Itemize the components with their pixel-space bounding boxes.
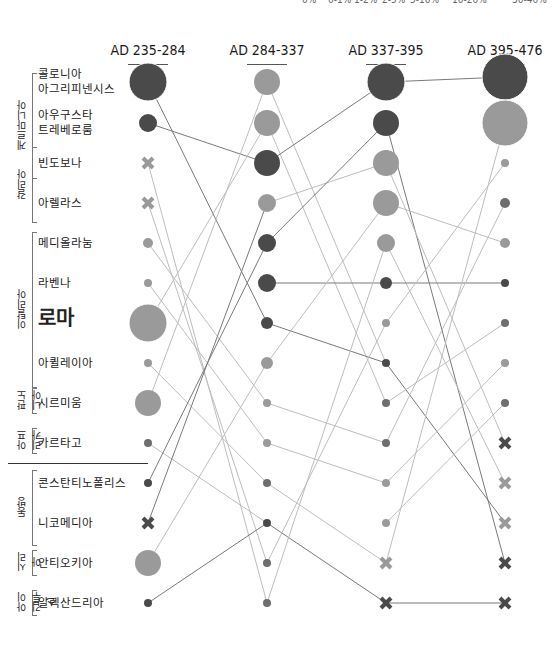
cross-icon <box>143 198 153 208</box>
share-circle <box>261 317 273 329</box>
share-circle <box>254 110 280 136</box>
share-circle <box>500 238 510 248</box>
share-circle <box>373 190 399 216</box>
transition-line <box>148 82 267 403</box>
share-circle <box>382 359 390 367</box>
share-circle <box>135 550 161 576</box>
share-circle <box>144 599 152 607</box>
transition-line <box>386 323 505 403</box>
share-circle <box>144 359 152 367</box>
cross-icon <box>143 158 153 168</box>
share-circle <box>261 357 273 369</box>
share-circle <box>382 479 390 487</box>
share-circle <box>129 63 167 101</box>
share-circle <box>501 399 509 407</box>
share-circle <box>254 150 280 176</box>
transition-line <box>267 123 386 243</box>
transition-line <box>267 82 386 163</box>
transition-line <box>386 363 505 523</box>
share-circle <box>263 439 271 447</box>
transition-line <box>148 203 267 563</box>
transition-line <box>148 363 267 483</box>
transition-line <box>386 203 505 243</box>
transition-line <box>148 82 267 323</box>
share-circle <box>482 100 528 146</box>
cross-icon <box>500 478 510 488</box>
share-circle <box>254 69 280 95</box>
share-circle <box>258 194 276 212</box>
cross-icon <box>500 558 510 568</box>
bump-chart <box>0 0 557 654</box>
share-circle <box>382 399 390 407</box>
share-circle <box>263 559 271 567</box>
transition-line <box>386 163 505 443</box>
share-circle <box>135 390 161 416</box>
share-circle <box>380 277 392 289</box>
transition-line <box>148 203 267 523</box>
share-circle <box>382 319 390 327</box>
share-circle <box>263 519 271 527</box>
share-circle <box>143 238 153 248</box>
transition-line <box>386 163 505 323</box>
cross-icon <box>500 518 510 528</box>
cross-icon <box>143 518 153 528</box>
share-circle <box>373 150 399 176</box>
share-circle <box>144 439 152 447</box>
transition-line <box>267 323 386 563</box>
transition-line <box>267 123 386 403</box>
share-circle <box>144 479 152 487</box>
share-circle <box>382 439 390 447</box>
share-circle <box>501 279 509 287</box>
share-circle <box>373 110 399 136</box>
transition-line <box>386 203 505 443</box>
transition-line <box>267 443 386 483</box>
share-circle <box>263 599 271 607</box>
transition-line <box>267 523 386 603</box>
transition-line <box>148 123 267 323</box>
share-circle <box>367 63 405 101</box>
share-circle <box>482 54 528 100</box>
share-circle <box>263 479 271 487</box>
share-circle <box>501 359 509 367</box>
transition-line <box>148 363 267 563</box>
share-circle <box>129 304 167 342</box>
transition-line <box>148 523 267 603</box>
share-circle <box>258 274 276 292</box>
share-circle <box>263 399 271 407</box>
transition-line <box>267 323 386 363</box>
transition-line <box>148 443 267 523</box>
transition-line <box>267 82 386 363</box>
share-circle <box>144 279 152 287</box>
cross-icon <box>500 438 510 448</box>
transition-line <box>267 483 386 563</box>
share-circle <box>500 198 510 208</box>
transition-line <box>267 243 386 603</box>
transition-line <box>386 363 505 483</box>
share-circle <box>382 519 390 527</box>
share-circle <box>139 114 157 132</box>
share-circle <box>377 234 395 252</box>
transition-line <box>386 403 505 523</box>
share-circle <box>501 159 509 167</box>
cross-icon <box>381 558 391 568</box>
share-circle <box>501 319 509 327</box>
share-circle <box>258 234 276 252</box>
